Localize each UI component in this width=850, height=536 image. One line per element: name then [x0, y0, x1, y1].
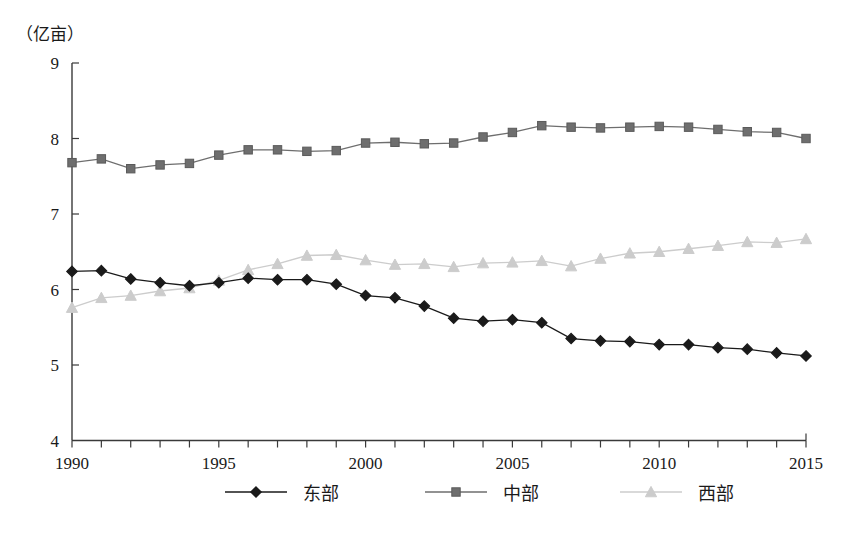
series-中部-marker-square	[743, 128, 751, 136]
series-中部-marker-square	[655, 122, 663, 130]
series-西部	[66, 233, 811, 312]
series-东部-marker-diamond	[302, 274, 312, 284]
series-中部-marker-square	[714, 125, 722, 133]
series-中部-marker-square	[449, 139, 457, 147]
series-东部-marker-diamond	[67, 266, 77, 276]
series-东部-marker-diamond	[625, 336, 635, 346]
series-东部-marker-diamond	[390, 293, 400, 303]
series-西部-marker-triangle	[272, 258, 283, 268]
series-东部-marker-diamond	[126, 274, 136, 284]
series-东部-marker-diamond	[713, 342, 723, 352]
legend-label-东部: 东部	[303, 484, 339, 504]
series-东部-marker-diamond	[771, 348, 781, 358]
series-中部-marker-square	[332, 146, 340, 154]
series-东部-marker-diamond	[360, 290, 370, 300]
x-tick-label: 2010	[642, 454, 676, 473]
y-tick-label: 8	[51, 130, 60, 149]
series-中部-marker-square	[244, 146, 252, 154]
series-中部-marker-square	[596, 124, 604, 132]
legend-东部-marker-diamond	[251, 487, 261, 497]
x-tick-label: 2000	[349, 454, 383, 473]
series-line-中部	[72, 126, 806, 169]
series-东部-marker-diamond	[155, 278, 165, 288]
series-中部-marker-square	[361, 139, 369, 147]
legend-item-西部[interactable]: 西部	[620, 484, 734, 504]
series-西部-marker-triangle	[800, 233, 811, 243]
series-中部-marker-square	[68, 158, 76, 166]
series-中部-marker-square	[303, 147, 311, 155]
series-西部-marker-triangle	[66, 302, 77, 312]
y-tick-label: 9	[51, 54, 60, 73]
series-line-西部	[72, 239, 806, 308]
chart-plot-area: （亿亩）456789199019952000200520102015东部中部西部	[16, 25, 823, 504]
series-东部-marker-diamond	[683, 339, 693, 349]
series-中部-marker-square	[772, 128, 780, 136]
series-中部-marker-square	[567, 123, 575, 131]
series-中部-marker-square	[215, 151, 223, 159]
series-中部-marker-square	[391, 138, 399, 146]
chart-container: （亿亩）456789199019952000200520102015东部中部西部	[0, 0, 850, 536]
series-东部-marker-diamond	[742, 344, 752, 354]
series-东部-marker-diamond	[419, 301, 429, 311]
legend-item-东部[interactable]: 东部	[225, 484, 339, 504]
series-中部-marker-square	[626, 123, 634, 131]
y-tick-label: 4	[51, 432, 60, 451]
series-中部-marker-square	[802, 134, 810, 142]
series-中部-marker-square	[420, 140, 428, 148]
y-tick-label: 5	[51, 356, 60, 375]
series-东部-marker-diamond	[537, 318, 547, 328]
y-axis-unit-label: （亿亩）	[16, 25, 84, 44]
series-中部-marker-square	[156, 161, 164, 169]
legend-item-中部[interactable]: 中部	[425, 484, 539, 504]
y-tick-label: 6	[51, 281, 60, 300]
y-tick-label: 7	[51, 205, 60, 224]
series-东部-marker-diamond	[272, 274, 282, 284]
series-东部-marker-diamond	[566, 333, 576, 343]
series-东部-marker-diamond	[331, 279, 341, 289]
series-东部-marker-diamond	[801, 351, 811, 361]
series-东部-marker-diamond	[654, 339, 664, 349]
legend-label-中部: 中部	[503, 484, 539, 504]
series-中部-marker-square	[479, 133, 487, 141]
series-东部-marker-diamond	[595, 336, 605, 346]
series-东部-marker-diamond	[96, 265, 106, 275]
series-中部-marker-square	[127, 165, 135, 173]
x-tick-label: 2005	[495, 454, 529, 473]
series-中部	[68, 121, 810, 172]
series-中部-marker-square	[185, 159, 193, 167]
series-中部-marker-square	[273, 146, 281, 154]
legend-label-西部: 西部	[698, 484, 734, 504]
x-tick-label: 1995	[202, 454, 236, 473]
series-中部-marker-square	[684, 123, 692, 131]
series-东部-marker-diamond	[478, 316, 488, 326]
series-东部	[67, 265, 811, 361]
legend-中部-marker-square	[452, 488, 460, 496]
x-tick-label: 2015	[789, 454, 823, 473]
series-line-东部	[72, 271, 806, 356]
x-tick-label: 1990	[55, 454, 89, 473]
series-中部-marker-square	[508, 128, 516, 136]
series-中部-marker-square	[97, 155, 105, 163]
series-东部-marker-diamond	[507, 315, 517, 325]
series-中部-marker-square	[538, 121, 546, 129]
series-东部-marker-diamond	[448, 313, 458, 323]
line-chart: （亿亩）456789199019952000200520102015东部中部西部	[0, 0, 850, 536]
